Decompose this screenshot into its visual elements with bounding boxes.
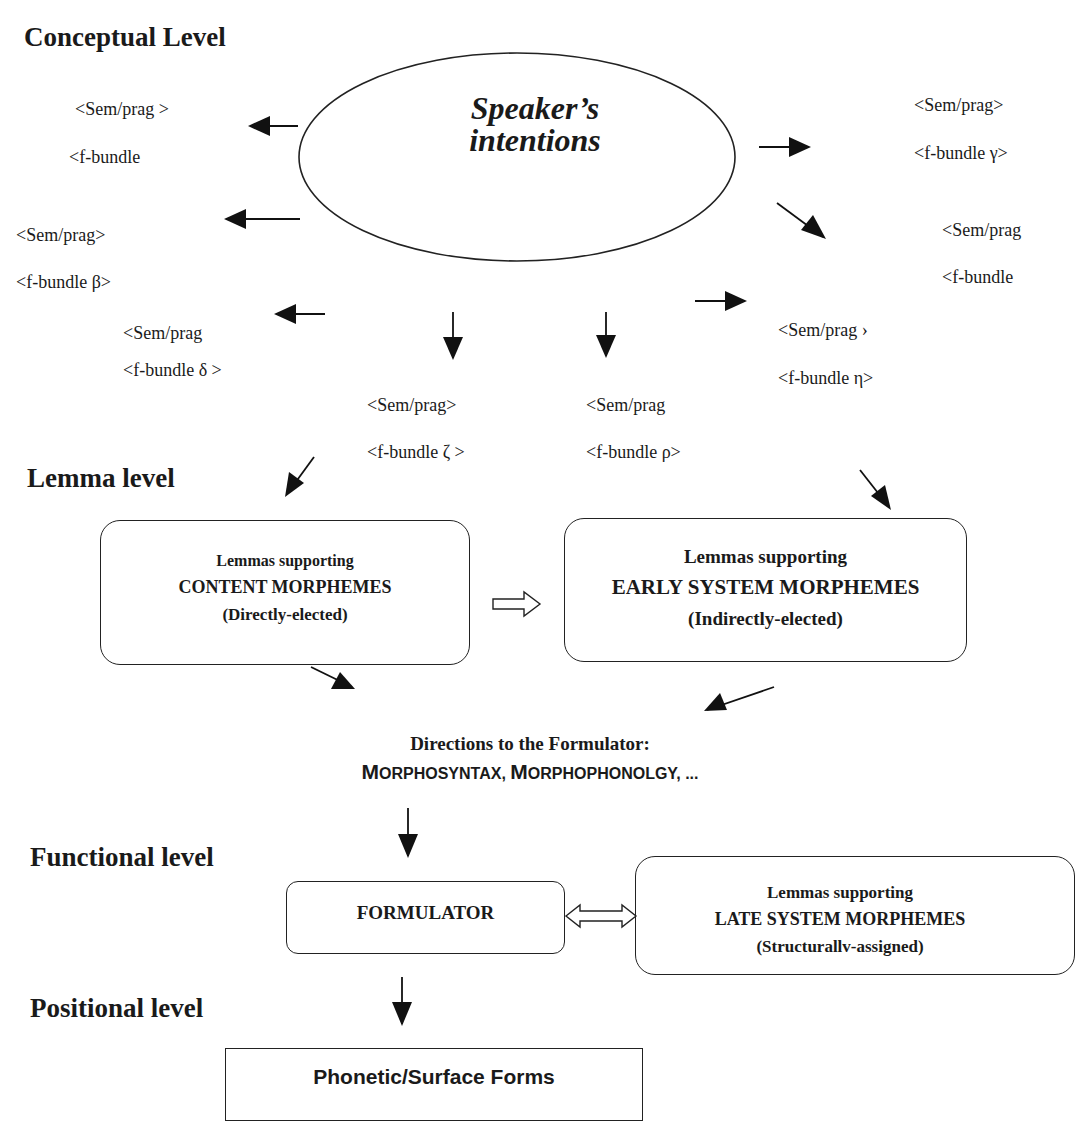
formulator-box: FORMULATOR [286, 881, 565, 954]
sem-prag-label: <Sem/prag> [914, 96, 1003, 114]
f-bundle-gamma-label: <f-bundle γ> [914, 144, 1008, 162]
sem-prag-label: <Sem/prag [586, 396, 665, 414]
late-system-morphemes-box: Lemmas supporting LATE SYSTEM MORPHEMES … [635, 856, 1075, 975]
directions-components-label: MORPHOSYNTAX, MORPHOPHONOLGY, ... [300, 760, 760, 784]
f-bundle-label: <f-bundle [69, 148, 140, 166]
f-bundle-delta-label: <f-bundle δ > [123, 361, 222, 379]
hollow-double-arrow [566, 905, 636, 927]
speaker-intentions-label: Speaker’s intentions [417, 92, 653, 156]
content-morphemes-box: Lemmas supporting CONTENT MORPHEMES (Dir… [100, 520, 470, 665]
sem-prag-label: <Sem/prag [123, 324, 202, 342]
f-bundle-zeta-label: <f-bundle ζ > [367, 443, 465, 461]
sem-prag-label: <Sem/prag [942, 221, 1021, 239]
directions-to-formulator-label: Directions to the Formulator: [330, 733, 730, 755]
f-bundle-rho-label: <f-bundle ρ> [586, 443, 681, 461]
f-bundle-eta-label: <f-bundle η> [778, 369, 873, 387]
sem-prag-label: <Sem/prag> [16, 226, 105, 244]
hollow-right-arrow [493, 592, 540, 616]
f-bundle-beta-label: <f-bundle β> [16, 273, 111, 291]
early-system-morphemes-box: Lemmas supporting EARLY SYSTEM MORPHEMES… [564, 518, 967, 662]
sem-prag-label: <Sem/prag > [75, 100, 169, 118]
phonetic-surface-forms-box: Phonetic/Surface Forms [225, 1048, 643, 1121]
f-bundle-label: <f-bundle [942, 268, 1013, 286]
sem-prag-label: <Sem/prag> [367, 396, 456, 414]
sem-prag-label: <Sem/prag › [778, 321, 868, 339]
